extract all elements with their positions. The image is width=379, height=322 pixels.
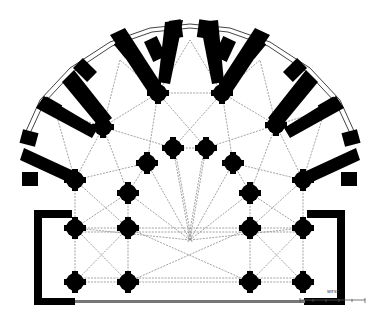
- buttresses: [19, 19, 360, 184]
- floor-plan-figure: WEST: [0, 0, 379, 322]
- orientation-caption: WEST: [327, 289, 339, 294]
- floor-plan-drawing: [0, 0, 379, 322]
